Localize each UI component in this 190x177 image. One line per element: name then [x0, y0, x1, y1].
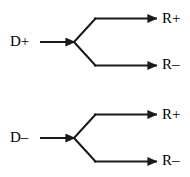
branch-group-top: [40, 19, 157, 66]
diagonal-upper-bottom: [74, 115, 96, 139]
output-label-top-positive: R+: [162, 11, 180, 26]
input-label-bottom: D–: [10, 130, 28, 145]
output-label-bottom-positive: R+: [162, 107, 180, 122]
diagram-vector-layer: [0, 0, 190, 177]
input-label-top: D+: [10, 34, 29, 49]
diagonal-lower-bottom: [74, 138, 96, 162]
diagonal-lower-top: [74, 42, 96, 66]
output-label-bottom-negative: R–: [162, 153, 180, 168]
branch-group-bottom: [40, 115, 157, 162]
diagram-canvas: D+ R+ R– D– R+ R–: [0, 0, 190, 177]
diagonal-upper-top: [74, 19, 96, 43]
output-label-top-negative: R–: [162, 57, 180, 72]
